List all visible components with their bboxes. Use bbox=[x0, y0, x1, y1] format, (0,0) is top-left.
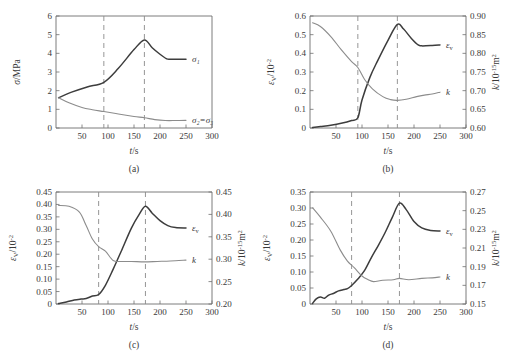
y-axis-title-left: εV/10-2 bbox=[261, 235, 273, 261]
x-tick-label: 150 bbox=[127, 307, 141, 317]
panel-tag: (a) bbox=[129, 164, 140, 175]
y-tick-label-right: 0.65 bbox=[470, 104, 486, 114]
y-axis-title-left: εV/10-2 bbox=[265, 59, 277, 85]
series-curve bbox=[59, 205, 186, 261]
y-tick-label-left: 6 bbox=[48, 11, 53, 21]
plot-d: 50100150200250300t/s00.050.100.150.200.2… bbox=[254, 176, 508, 354]
x-tick-label: 150 bbox=[381, 307, 395, 317]
y-tick-label-left: 0 bbox=[302, 299, 307, 309]
plot-frame bbox=[56, 192, 212, 304]
plot-c: 50100150200250300t/s00.050.100.150.200.2… bbox=[0, 176, 254, 354]
y-tick-label-left: 5 bbox=[48, 30, 53, 40]
y-tick-label-left: 0.45 bbox=[36, 187, 52, 197]
series-curve bbox=[313, 203, 440, 303]
y-tick-label-left: 0.15 bbox=[36, 262, 52, 272]
x-tick-label: 200 bbox=[407, 131, 421, 141]
y-tick-label-right: 0.21 bbox=[470, 243, 486, 253]
panel-tag: (b) bbox=[382, 164, 393, 175]
y-tick-label-right: 0.19 bbox=[470, 262, 486, 272]
y-tick-label-right: 0.15 bbox=[470, 299, 486, 309]
y-tick-label-right: 0.25 bbox=[216, 277, 232, 287]
x-tick-label: 100 bbox=[101, 307, 115, 317]
x-tick-label: 250 bbox=[179, 131, 193, 141]
y-tick-label-right: 0.85 bbox=[470, 30, 486, 40]
panel-b: 50100150200250300t/s00.10.20.30.40.50.6ε… bbox=[254, 0, 508, 178]
x-tick-label: 250 bbox=[433, 131, 447, 141]
y-tick-label-left: 2 bbox=[48, 86, 53, 96]
y-tick-label-left: 1 bbox=[48, 104, 53, 114]
series-label: εv bbox=[446, 40, 454, 51]
y-tick-label-right: 0.35 bbox=[216, 232, 232, 242]
series-curve bbox=[59, 40, 186, 98]
x-tick-label: 200 bbox=[153, 131, 167, 141]
y-tick-label-left: 0.35 bbox=[36, 212, 52, 222]
y-tick-label-right: 0.17 bbox=[470, 280, 486, 290]
series-label: σ₁ bbox=[192, 54, 200, 64]
series-label: σ₂=σ₃ bbox=[192, 115, 213, 125]
y-tick-label-left: 0 bbox=[48, 123, 53, 133]
y-tick-label-left: 0.05 bbox=[36, 287, 52, 297]
x-tick-label: 100 bbox=[101, 131, 115, 141]
x-tick-label: 300 bbox=[205, 131, 219, 141]
plot-b: 50100150200250300t/s00.10.20.30.40.50.6ε… bbox=[254, 0, 508, 178]
y-tick-label-right: 0.27 bbox=[470, 187, 486, 197]
series-label: εv bbox=[446, 226, 454, 237]
y-tick-label-left: 0.25 bbox=[290, 219, 306, 229]
y-axis-title-right: k/10-15m2 bbox=[236, 230, 247, 266]
series-curve bbox=[59, 206, 186, 303]
x-tick-label: 50 bbox=[78, 131, 88, 141]
panel-tag: (c) bbox=[129, 340, 140, 351]
y-tick-label-left: 0.25 bbox=[36, 237, 52, 247]
plot-frame bbox=[310, 16, 466, 128]
y-tick-label-right: 0.70 bbox=[470, 86, 486, 96]
x-axis-title: t/s bbox=[130, 322, 139, 332]
y-tick-label-right: 0.20 bbox=[216, 299, 232, 309]
y-tick-label-right: 0.30 bbox=[216, 254, 232, 264]
y-tick-label-left: 0.1 bbox=[295, 104, 306, 114]
x-tick-label: 150 bbox=[381, 131, 395, 141]
y-tick-label-right: 0.25 bbox=[470, 206, 486, 216]
y-tick-label-right: 0.90 bbox=[470, 11, 486, 21]
panel-d: 50100150200250300t/s00.050.100.150.200.2… bbox=[254, 176, 508, 354]
y-tick-label-right: 0.23 bbox=[470, 224, 486, 234]
y-tick-label-left: 0.2 bbox=[295, 86, 306, 96]
y-tick-label-left: 0.30 bbox=[36, 224, 52, 234]
y-tick-label-left: 0.05 bbox=[290, 283, 306, 293]
y-tick-label-left: 0.35 bbox=[290, 187, 306, 197]
y-tick-label-left: 0.20 bbox=[36, 249, 52, 259]
x-tick-label: 250 bbox=[433, 307, 447, 317]
y-tick-label-left: 0.40 bbox=[36, 199, 52, 209]
y-tick-label-left: 0.10 bbox=[36, 274, 52, 284]
y-axis-title-left: εV/10-2 bbox=[7, 235, 19, 261]
series-label: k bbox=[446, 87, 451, 97]
y-tick-label-right: 0.75 bbox=[470, 67, 486, 77]
y-tick-label-right: 0.60 bbox=[470, 123, 486, 133]
x-tick-label: 50 bbox=[78, 307, 88, 317]
y-tick-label-right: 0.45 bbox=[216, 187, 232, 197]
y-tick-label-right: 0.40 bbox=[216, 209, 232, 219]
y-tick-label-left: 0 bbox=[48, 299, 53, 309]
x-tick-label: 100 bbox=[355, 307, 369, 317]
y-tick-label-left: 0.6 bbox=[295, 11, 307, 21]
y-tick-label-left: 0.30 bbox=[290, 203, 306, 213]
series-curve bbox=[313, 24, 440, 128]
plot-frame bbox=[56, 16, 212, 128]
panel-a: 50100150200250300t/s0123456σ/MPaσ₁σ₂=σ₃(… bbox=[0, 0, 254, 178]
y-tick-label-left: 0.4 bbox=[295, 48, 307, 58]
x-tick-label: 200 bbox=[153, 307, 167, 317]
x-tick-label: 100 bbox=[355, 131, 369, 141]
figure-container: 50100150200250300t/s0123456σ/MPaσ₁σ₂=σ₃(… bbox=[0, 0, 508, 357]
series-label: k bbox=[446, 272, 451, 282]
series-curve bbox=[313, 23, 440, 101]
x-tick-label: 250 bbox=[179, 307, 193, 317]
plot-frame bbox=[310, 192, 466, 304]
panel-c: 50100150200250300t/s00.050.100.150.200.2… bbox=[0, 176, 254, 354]
y-tick-label-left: 0.3 bbox=[295, 67, 307, 77]
y-tick-label-left: 0.5 bbox=[295, 30, 307, 40]
x-tick-label: 150 bbox=[127, 131, 141, 141]
y-tick-label-left: 0 bbox=[302, 123, 307, 133]
y-tick-label-left: 0.15 bbox=[290, 251, 306, 261]
series-curve bbox=[59, 98, 186, 121]
plot-a: 50100150200250300t/s0123456σ/MPaσ₁σ₂=σ₃(… bbox=[0, 0, 254, 178]
x-tick-label: 50 bbox=[332, 307, 342, 317]
